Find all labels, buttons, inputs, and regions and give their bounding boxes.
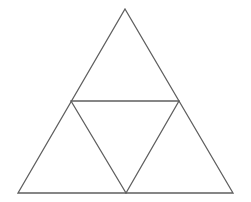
diagram-canvas [0, 0, 251, 202]
region-right-triangle [126, 101, 233, 193]
region-left-triangle [18, 101, 126, 193]
midsegment-left-descending-line [71, 101, 126, 193]
midsegment-right-descending-line [126, 101, 179, 193]
region-top-triangle [71, 9, 179, 101]
triangle-diagram [0, 0, 251, 202]
region-center-triangle [71, 101, 179, 193]
